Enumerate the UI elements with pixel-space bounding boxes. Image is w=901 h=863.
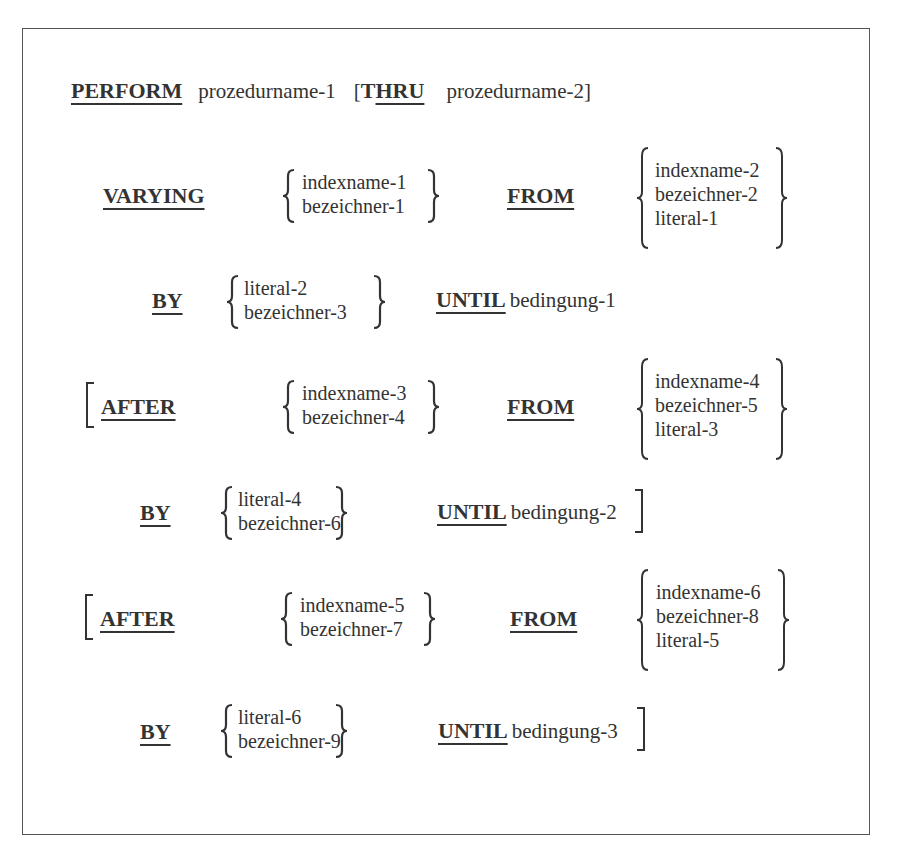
condition-3: bedingung-3 bbox=[512, 719, 618, 743]
close-brace-icon bbox=[776, 568, 790, 672]
close-bracket-icon bbox=[637, 707, 645, 751]
choice-literal-6: literal-6 bbox=[238, 705, 341, 729]
from-keyword: FROM bbox=[507, 183, 574, 209]
open-brace-icon bbox=[226, 274, 240, 330]
choice-literal-5: literal-5 bbox=[656, 628, 760, 652]
choice-indexname-4: indexname-4 bbox=[655, 369, 759, 393]
choice-literal-3: literal-3 bbox=[655, 417, 759, 441]
thru-keyword: HRU bbox=[376, 78, 439, 103]
open-brace-icon bbox=[636, 146, 650, 250]
choice-bezeichner-2: bezeichner-2 bbox=[655, 182, 759, 206]
choice-indexname-3: indexname-3 bbox=[302, 381, 406, 405]
thru-prefix: T bbox=[361, 78, 376, 103]
until-line-2: UNTIL bedingung-2 bbox=[437, 499, 617, 525]
open-bracket-icon bbox=[86, 382, 94, 428]
varying-choices: indexname-1 bezeichner-1 bbox=[302, 170, 406, 218]
choice-bezeichner-7: bezeichner-7 bbox=[300, 617, 404, 641]
choice-bezeichner-4: bezeichner-4 bbox=[302, 405, 406, 429]
by-choices: literal-4 bezeichner-6 bbox=[238, 487, 341, 535]
choice-bezeichner-8: bezeichner-8 bbox=[656, 604, 760, 628]
close-brace-icon bbox=[426, 379, 440, 435]
close-brace-icon bbox=[372, 274, 386, 330]
from-choices: indexname-4 bezeichner-5 literal-3 bbox=[655, 369, 759, 441]
after-choices: indexname-5 bezeichner-7 bbox=[300, 593, 404, 641]
until-keyword: UNTIL bbox=[437, 499, 507, 524]
procedure-name-2: prozedurname-2] bbox=[446, 79, 591, 103]
by-keyword: BY bbox=[140, 719, 171, 745]
condition-1: bedingung-1 bbox=[510, 288, 616, 312]
from-keyword: FROM bbox=[510, 606, 577, 632]
choice-literal-4: literal-4 bbox=[238, 487, 341, 511]
from-choices: indexname-6 bezeichner-8 literal-5 bbox=[656, 580, 760, 652]
open-brace-icon bbox=[280, 591, 294, 647]
close-brace-icon bbox=[774, 357, 788, 461]
until-keyword: UNTIL bbox=[438, 718, 508, 743]
by-choices: literal-2 bezeichner-3 bbox=[244, 276, 347, 324]
close-brace-icon bbox=[774, 146, 788, 250]
choice-bezeichner-1: bezeichner-1 bbox=[302, 194, 406, 218]
choice-bezeichner-5: bezeichner-5 bbox=[655, 393, 759, 417]
open-brace-icon bbox=[282, 379, 296, 435]
by-keyword: BY bbox=[140, 500, 171, 526]
open-bracket-icon bbox=[85, 594, 93, 640]
perform-keyword: PERFORM bbox=[71, 78, 182, 103]
close-brace-icon bbox=[334, 703, 348, 759]
close-bracket-icon bbox=[635, 489, 643, 533]
choice-literal-1: literal-1 bbox=[655, 206, 759, 230]
from-keyword: FROM bbox=[507, 394, 574, 420]
from-choices: indexname-2 bezeichner-2 literal-1 bbox=[655, 158, 759, 230]
choice-bezeichner-6: bezeichner-6 bbox=[238, 511, 341, 535]
close-brace-icon bbox=[422, 591, 436, 647]
by-choices: literal-6 bezeichner-9 bbox=[238, 705, 341, 753]
open-brace-icon bbox=[636, 357, 650, 461]
open-brace-icon bbox=[636, 568, 650, 672]
choice-bezeichner-3: bezeichner-3 bbox=[244, 300, 347, 324]
procedure-name-1: prozedurname-1 bbox=[198, 79, 336, 103]
choice-indexname-2: indexname-2 bbox=[655, 158, 759, 182]
perform-line: PERFORM prozedurname-1 [THRU prozedurnam… bbox=[71, 78, 591, 104]
close-brace-icon bbox=[334, 485, 348, 541]
open-bracket: [ bbox=[354, 79, 361, 103]
choice-bezeichner-9: bezeichner-9 bbox=[238, 729, 341, 753]
open-brace-icon bbox=[282, 168, 296, 224]
open-brace-icon bbox=[220, 703, 234, 759]
choice-indexname-1: indexname-1 bbox=[302, 170, 406, 194]
after-choices: indexname-3 bezeichner-4 bbox=[302, 381, 406, 429]
close-brace-icon bbox=[426, 168, 440, 224]
until-line-3: UNTIL bedingung-3 bbox=[438, 718, 618, 744]
condition-2: bedingung-2 bbox=[511, 500, 617, 524]
varying-keyword: VARYING bbox=[103, 183, 205, 209]
until-keyword: UNTIL bbox=[436, 287, 506, 312]
after-keyword: AFTER bbox=[101, 394, 176, 420]
choice-literal-2: literal-2 bbox=[244, 276, 347, 300]
choice-indexname-6: indexname-6 bbox=[656, 580, 760, 604]
by-keyword: BY bbox=[152, 288, 183, 314]
until-line-1: UNTIL bedingung-1 bbox=[436, 287, 616, 313]
after-keyword: AFTER bbox=[100, 606, 175, 632]
open-brace-icon bbox=[220, 485, 234, 541]
choice-indexname-5: indexname-5 bbox=[300, 593, 404, 617]
